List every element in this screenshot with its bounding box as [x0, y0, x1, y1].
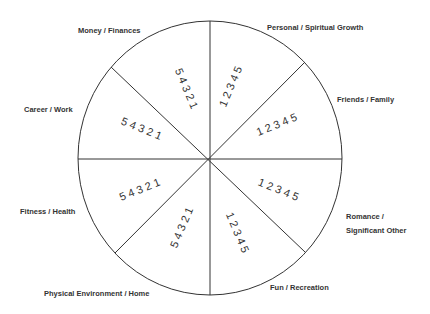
label-fun-recreation: Fun / Recreation: [270, 281, 329, 295]
label-money-finances: Money / Finances: [78, 24, 141, 38]
label-friends-family: Friends / Family: [337, 93, 394, 107]
label-romance-line2: Significant Other: [346, 224, 406, 238]
score-fun-recreation: 1 2 3 4 5: [224, 210, 252, 254]
label-personal-growth: Personal / Spiritual Growth: [267, 21, 363, 35]
score-personal-growth: 1 2 3 4 5: [216, 64, 244, 108]
label-career-work: Career / Work: [24, 103, 73, 117]
score-physical-environment: 5 4 3 2 1: [167, 205, 195, 249]
label-fitness-health: Fitness / Health: [20, 205, 75, 219]
label-romance: Romance /: [346, 210, 384, 224]
label-physical-environment: Physical Environment / Home: [44, 287, 149, 301]
score-fitness-health: 5 4 3 2 1: [117, 176, 161, 203]
life-wheel-diagram: 1 2 3 4 5 1 2 3 4 5 1 2 3 4 5 1 2 3 4 5 …: [0, 0, 430, 314]
score-romance: 1 2 3 4 5: [256, 176, 300, 203]
score-money-finances: 5 4 3 2 1: [173, 66, 201, 110]
score-friends-family: 1 2 3 4 5: [254, 111, 298, 138]
score-career-work: 5 4 3 2 1: [119, 115, 163, 142]
